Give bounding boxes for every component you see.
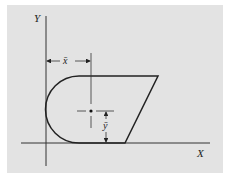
y-axis-label: Y <box>34 12 42 24</box>
x-bar-label: x̄ <box>62 55 68 66</box>
y-bar-label: ȳ <box>102 120 108 131</box>
centroid-diagram: Y X x̄ ȳ <box>0 0 230 181</box>
composite-shape <box>45 76 158 143</box>
centroid-point <box>89 109 92 112</box>
x-axis-label: X <box>196 147 205 159</box>
